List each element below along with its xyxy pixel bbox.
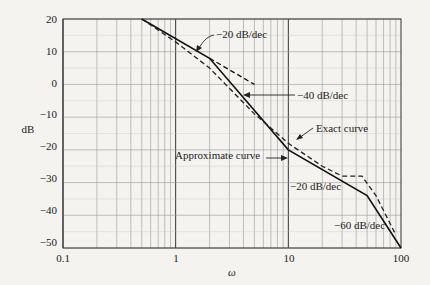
annotation-minus20-lower: −20 dB/dec: [290, 180, 341, 192]
y-tick-m20: −20: [40, 140, 58, 152]
asymptote-extension-line: [210, 58, 255, 84]
y-tick-m40: −40: [40, 204, 58, 216]
y-axis-label: dB: [22, 123, 35, 135]
annotation-exact-curve: Exact curve: [316, 122, 368, 134]
x-axis-label: ω: [228, 266, 236, 278]
y-tick-m50: −50: [40, 236, 58, 248]
y-tick-m10: −10: [40, 108, 58, 120]
x-tick-10: 10: [284, 252, 296, 264]
x-tick-100: 100: [393, 252, 410, 264]
x-tick-1: 1: [173, 252, 179, 264]
annotation-minus40: −40 dB/dec: [297, 89, 348, 101]
annotation-approximate-curve: Approximate curve: [175, 149, 260, 161]
y-tick-10: 10: [46, 45, 58, 57]
annotation-minus20-upper: −20 dB/dec: [216, 28, 267, 40]
y-tick-0: 0: [52, 77, 58, 89]
y-tick-20: 20: [46, 13, 58, 25]
y-tick-m30: −30: [40, 172, 58, 184]
bode-magnitude-chart: 20 10 0 −10 −20 −30 −40 −50 0.1 1 10 100…: [0, 0, 430, 285]
annotation-minus60: −60 dB/dec: [334, 219, 385, 231]
x-tick-0.1: 0.1: [56, 252, 70, 264]
